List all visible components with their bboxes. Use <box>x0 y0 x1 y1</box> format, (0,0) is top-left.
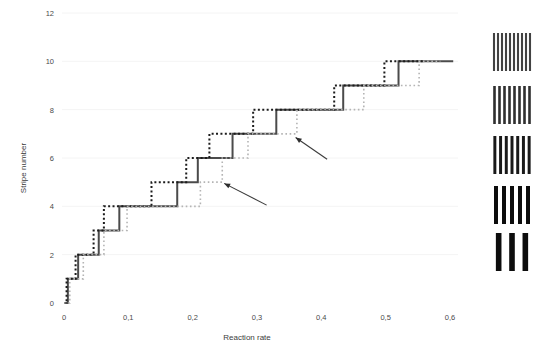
y-tick-label-8: 8 <box>50 106 54 115</box>
stripe-bar <box>494 186 498 224</box>
x-axis-title: Reaction rate <box>223 333 271 342</box>
y-tick-label-12: 12 <box>46 9 54 18</box>
y-tick-label-0: 0 <box>50 299 54 308</box>
series-solid-series <box>64 61 453 303</box>
series-grey-dotted-series <box>64 61 440 303</box>
thumbnail-stripe-pattern-3 <box>492 233 532 271</box>
series-layer <box>64 61 453 303</box>
thumbnail-stripe-pattern-8 <box>492 86 532 124</box>
stripe-bar <box>518 186 522 224</box>
x-tick-label-0_6: 0,6 <box>445 313 455 322</box>
y-tick-label-6: 6 <box>50 154 54 163</box>
y-tick-label-10: 10 <box>46 57 54 66</box>
arrow-lower-shaft <box>224 183 266 205</box>
thumbnail-overlay <box>492 86 532 124</box>
stripe-bar <box>496 233 502 271</box>
stripe-bar <box>509 233 515 271</box>
x-tick-label-0_2: 0,2 <box>187 313 197 322</box>
annotation-layer <box>224 137 327 205</box>
y-tick-label-2: 2 <box>50 251 54 260</box>
thumbnail-stripe-pattern-5 <box>492 186 532 224</box>
series-black-dotted-series <box>64 61 424 303</box>
chart-figure: 02468101200,10,20,30,40,50,6Reaction rat… <box>0 0 549 358</box>
axis-layer: 02468101200,10,20,30,40,50,6Reaction rat… <box>19 9 455 342</box>
stripe-number-vs-reaction-rate-chart: 02468101200,10,20,30,40,50,6Reaction rat… <box>0 0 549 358</box>
thumbnail-stripe-pattern-7 <box>492 136 532 174</box>
arrow-upper-head <box>296 137 302 142</box>
thumbnail-overlay <box>492 33 532 71</box>
stripe-bar <box>510 186 514 224</box>
y-tick-label-4: 4 <box>50 202 54 211</box>
stripe-bar <box>523 233 529 271</box>
stripe-bar <box>502 186 506 224</box>
stripe-bar <box>526 186 530 224</box>
thumbnail-overlay <box>492 136 532 174</box>
x-tick-label-0_1: 0,1 <box>123 313 133 322</box>
x-tick-label-0_3: 0,3 <box>252 313 262 322</box>
x-tick-label-0: 0 <box>62 313 66 322</box>
y-axis-title: Stripe number <box>19 143 28 194</box>
x-tick-label-0_5: 0,5 <box>380 313 390 322</box>
thumbnail-stripe-pattern-10 <box>492 33 532 71</box>
x-tick-label-0_4: 0,4 <box>316 313 326 322</box>
